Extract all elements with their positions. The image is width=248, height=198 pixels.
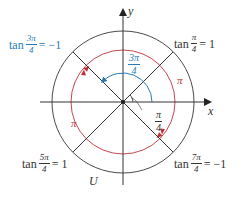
tan-value: = −1 bbox=[39, 39, 62, 51]
tan-prefix: tan bbox=[174, 158, 189, 170]
tan-7pi-over-4-label: tan 7π 4 = −1 bbox=[174, 153, 226, 174]
tan-pi-over-4-label: tan π 4 = 1 bbox=[174, 33, 215, 54]
arc-label-pi-right: π bbox=[177, 75, 183, 86]
angle-label-3pi-over-4: 3π 4 bbox=[126, 53, 142, 76]
tan-prefix: tan bbox=[9, 39, 24, 51]
tan-value: = 1 bbox=[199, 38, 215, 50]
fraction: π 4 bbox=[155, 110, 162, 133]
tan-prefix: tan bbox=[174, 38, 189, 50]
fraction: 3π 4 bbox=[128, 53, 140, 76]
arc-label-pi-left: π bbox=[71, 118, 77, 129]
tan-5pi-over-4-label: tan 5π 4 = 1 bbox=[22, 153, 67, 174]
fraction: 5π 4 bbox=[39, 153, 50, 174]
fraction: 7π 4 bbox=[191, 153, 202, 174]
unit-circle-diagram: y x U tan 3π 4 = −1 tan π 4 = 1 tan 5π 4… bbox=[0, 0, 248, 198]
origin-point bbox=[121, 100, 125, 104]
fraction: 3π 4 bbox=[26, 34, 37, 55]
y-axis-label: y bbox=[128, 4, 133, 19]
angle-label-pi-over-4: π 4 bbox=[153, 110, 164, 133]
unit-circle-label: U bbox=[89, 174, 98, 189]
tan-value: = −1 bbox=[204, 158, 227, 170]
fraction: π 4 bbox=[191, 33, 198, 54]
x-axis-label: x bbox=[208, 104, 213, 119]
tan-prefix: tan bbox=[22, 158, 37, 170]
tan-3pi-over-4-label: tan 3π 4 = −1 bbox=[9, 34, 61, 55]
tan-value: = 1 bbox=[52, 158, 68, 170]
